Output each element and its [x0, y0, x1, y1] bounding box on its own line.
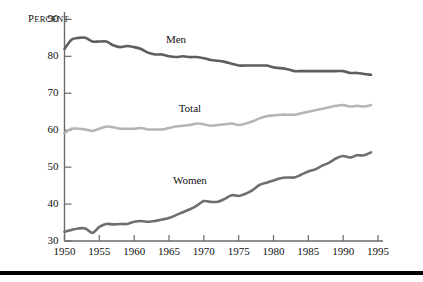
bottom-rule [0, 271, 423, 275]
chart-container: PERCENT 30405060708090 19501955196019651… [0, 0, 423, 282]
x-tick-label: 1950 [54, 245, 77, 257]
x-tick-label: 1965 [158, 245, 181, 257]
line-chart-svg: PERCENT 30405060708090 19501955196019651… [0, 0, 423, 282]
series-line-men [65, 38, 372, 75]
y-tick-label: 30 [48, 234, 60, 246]
y-tick-label: 50 [48, 160, 60, 172]
series-paths-group [65, 38, 372, 233]
series-label-women: Women [173, 174, 207, 186]
x-tick-label: 1975 [228, 245, 251, 257]
series-line-women [65, 152, 372, 233]
x-tick-label: 1980 [263, 245, 286, 257]
x-tick-label: 1970 [193, 245, 216, 257]
x-tick-label: 1960 [123, 245, 146, 257]
series-label-men: Men [166, 33, 187, 45]
series-label-total: Total [179, 102, 201, 114]
x-tick-label: 1955 [88, 245, 111, 257]
series-line-total [65, 105, 372, 133]
y-tick-label: 60 [48, 123, 60, 135]
x-tick-label: 1985 [297, 245, 320, 257]
y-tick-label: 80 [48, 49, 60, 61]
y-axis-ticks: 30405060708090 [48, 12, 72, 246]
x-axis-ticks: 1950195519601965197019751980198519901995 [54, 235, 390, 257]
y-tick-label: 90 [48, 12, 60, 24]
y-tick-label: 70 [48, 86, 60, 98]
x-tick-label: 1995 [367, 245, 390, 257]
x-tick-label: 1990 [332, 245, 355, 257]
y-tick-label: 40 [48, 197, 60, 209]
